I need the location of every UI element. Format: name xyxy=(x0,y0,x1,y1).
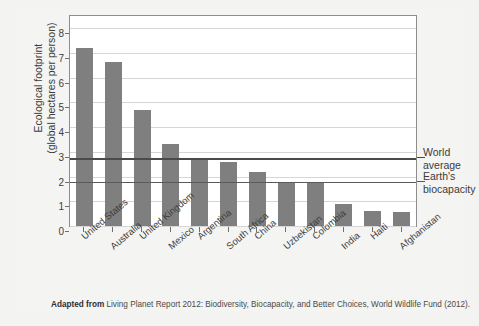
y-axis: Ecological footprint (global hectares pe… xyxy=(17,15,69,227)
reference-line-label-line1: World xyxy=(423,146,461,159)
y-tick-label: 2 xyxy=(24,176,64,187)
bar xyxy=(191,158,208,226)
bar xyxy=(278,183,295,226)
reference-line-label: Earth'sbiocapacity xyxy=(423,170,476,195)
x-tick-label: India xyxy=(339,230,362,252)
y-tick-label: 7 xyxy=(24,53,64,64)
plot-area xyxy=(69,15,417,227)
bar xyxy=(393,212,410,226)
source-caption: Adapted from Living Planet Report 2012: … xyxy=(51,300,479,311)
y-tick-label: 3 xyxy=(24,151,64,162)
y-tick-label: 1 xyxy=(24,201,64,212)
y-tick-label: 6 xyxy=(24,77,64,88)
bar xyxy=(134,110,151,226)
reference-line-label-line2: biocapacity xyxy=(423,183,476,196)
y-tick-label: 4 xyxy=(24,127,64,138)
reference-line xyxy=(70,182,416,183)
reference-line-label: Worldaverage xyxy=(423,146,461,171)
y-tick-label: 8 xyxy=(24,28,64,39)
chart-figure: Ecological footprint (global hectares pe… xyxy=(17,9,463,311)
bar-series xyxy=(70,16,416,226)
bar xyxy=(76,48,93,226)
figure-page: Ecological footprint (global hectares pe… xyxy=(0,0,479,326)
y-tick-label: 5 xyxy=(24,102,64,113)
caption-bold: Adapted from xyxy=(51,300,104,309)
reference-line-label-line1: Earth's xyxy=(423,170,476,183)
y-tick-label: 0 xyxy=(24,226,64,237)
caption-text: Living Planet Report 2012: Biodiversity,… xyxy=(107,300,471,309)
reference-line xyxy=(70,158,416,160)
x-axis-labels: United StatesAustraliaUnited KingdomMexi… xyxy=(69,231,429,293)
